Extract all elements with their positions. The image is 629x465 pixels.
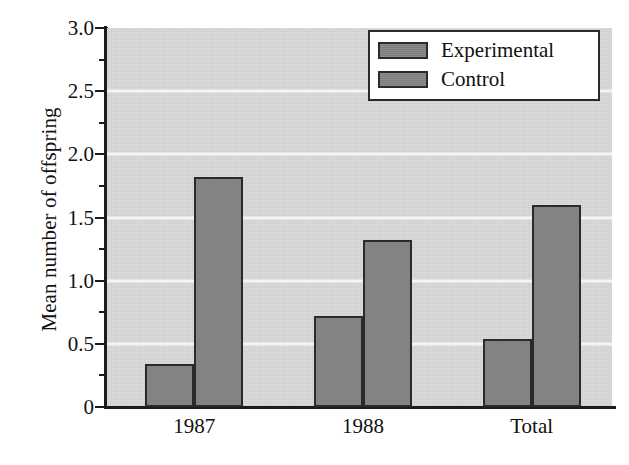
y-tick-label: 0.5: [18, 333, 94, 354]
bar-1987-control: [194, 177, 243, 407]
gridline: [106, 153, 612, 156]
legend-label-control: Control: [441, 69, 505, 90]
y-tick-label: 1.5: [18, 207, 94, 228]
x-tick-label: 1988: [342, 414, 384, 439]
x-tick-label: Total: [510, 414, 553, 439]
bar-1988-experimental: [314, 316, 363, 407]
x-axis-tick-labels: 19871988Total: [106, 414, 612, 454]
y-tick-label: 1.0: [18, 270, 94, 291]
legend-item-experimental: Experimental: [378, 36, 590, 65]
y-axis-line: [104, 26, 107, 409]
bar-1987-experimental: [145, 364, 194, 407]
legend-swatch-control: [378, 71, 428, 88]
y-tick-label: 2.5: [18, 81, 94, 102]
legend-item-control: Control: [378, 65, 590, 94]
x-tick-label: 1987: [173, 414, 215, 439]
y-tick-label: 0: [18, 397, 94, 418]
legend-label-experimental: Experimental: [441, 40, 554, 61]
y-tick-label: 3.0: [18, 18, 94, 39]
bar-total-experimental: [483, 339, 532, 407]
y-axis-tick-labels: 00.51.01.52.02.53.0: [18, 28, 94, 407]
chart-legend: Experimental Control: [368, 30, 600, 101]
y-tick-label: 2.0: [18, 144, 94, 165]
bar-chart-figure: Mean number of offspring 00.51.01.52.02.…: [0, 0, 629, 465]
bar-1988-control: [363, 240, 412, 407]
bar-total-control: [532, 205, 581, 407]
legend-swatch-experimental: [378, 42, 428, 59]
